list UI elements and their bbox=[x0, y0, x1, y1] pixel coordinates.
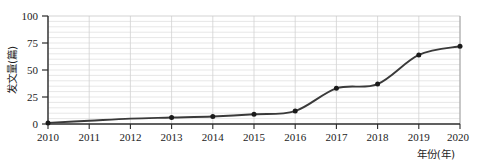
data-point-2019 bbox=[416, 52, 421, 57]
line-chart: 0 25 50 75 100 2010 2011 2012 2013 2014 … bbox=[0, 0, 488, 165]
y-tick-label-0: 0 bbox=[33, 118, 39, 130]
x-tick-label-2010: 2010 bbox=[37, 131, 60, 143]
y-tick-label-50: 50 bbox=[27, 64, 39, 76]
data-point-2018 bbox=[375, 82, 380, 87]
x-tick-label-2017: 2017 bbox=[325, 131, 348, 143]
x-tick-label-2015: 2015 bbox=[243, 131, 266, 143]
data-point-2013 bbox=[169, 115, 174, 120]
x-tick-label-2019: 2019 bbox=[408, 131, 431, 143]
data-point-2014 bbox=[210, 114, 215, 119]
chart-figure: 0 25 50 75 100 2010 2011 2012 2013 2014 … bbox=[0, 0, 488, 165]
x-tick-label-2013: 2013 bbox=[161, 131, 184, 143]
data-point-2020 bbox=[458, 44, 463, 49]
x-tick-label-2018: 2018 bbox=[367, 131, 390, 143]
y-tick-label-25: 25 bbox=[27, 91, 39, 103]
y-axis-title: 发文量(篇) bbox=[6, 46, 18, 94]
x-tick-label-2011: 2011 bbox=[78, 131, 100, 143]
x-axis-title: 年份(年) bbox=[417, 148, 455, 160]
data-point-2017 bbox=[334, 86, 339, 91]
y-tick-labels: 0 25 50 75 100 bbox=[22, 10, 39, 130]
x-tick-label-2016: 2016 bbox=[284, 131, 307, 143]
x-tick-labels: 2010 2011 2012 2013 2014 2015 2016 2017 … bbox=[37, 131, 470, 143]
x-axis-ticks bbox=[48, 124, 460, 129]
data-point-2015 bbox=[252, 112, 257, 117]
y-axis-ticks bbox=[42, 16, 48, 124]
x-tick-label-2012: 2012 bbox=[119, 131, 141, 143]
x-tick-label-2014: 2014 bbox=[202, 131, 225, 143]
data-point-2010 bbox=[46, 120, 51, 125]
x-tick-label-2020: 2020 bbox=[447, 131, 470, 143]
y-tick-label-100: 100 bbox=[22, 10, 39, 22]
y-tick-label-75: 75 bbox=[27, 37, 39, 49]
data-point-2016 bbox=[293, 109, 298, 114]
